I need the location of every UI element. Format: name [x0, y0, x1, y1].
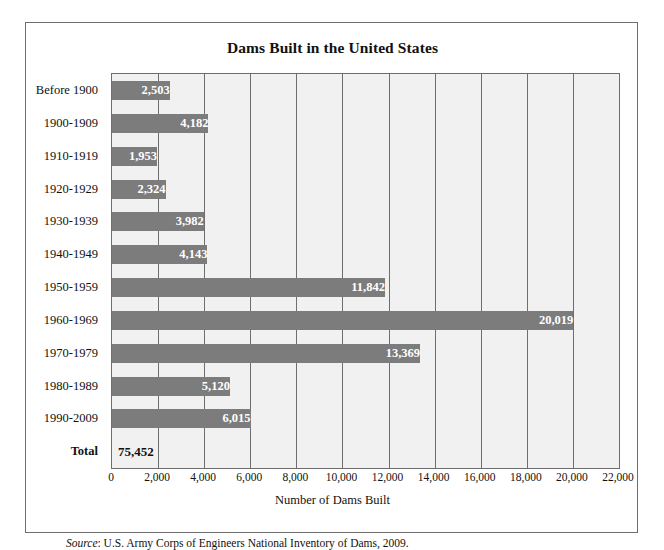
bar-row[interactable]: 11,842 — [112, 271, 619, 304]
x-tick-label: 20,000 — [556, 471, 588, 483]
bar-value-label: 4,182 — [112, 114, 213, 133]
x-tick-label: 4,000 — [190, 471, 216, 483]
x-tick-label: 10,000 — [326, 471, 358, 483]
bar-row[interactable]: 5,120 — [112, 370, 619, 403]
category-label: 1920-1929 — [0, 173, 98, 206]
x-tick-label: 2,000 — [144, 471, 170, 483]
bar-row[interactable]: 4,143 — [112, 238, 619, 271]
bar-value-label: 1,953 — [112, 147, 162, 166]
x-tick-label: 14,000 — [418, 471, 450, 483]
bar-value-label: 75,452 — [112, 442, 154, 461]
category-label: 1940-1949 — [0, 238, 98, 271]
source-label: Source — [66, 537, 98, 549]
bar-value-label: 4,143 — [112, 245, 212, 264]
x-tick-label: 12,000 — [372, 471, 404, 483]
x-axis-title: Number of Dams Built — [26, 493, 639, 508]
bar-row[interactable]: 13,369 — [112, 337, 619, 370]
bar-row[interactable]: 6,015 — [112, 402, 619, 435]
bar-value-label: 20,019 — [112, 311, 578, 330]
bar-row[interactable]: 1,953 — [112, 140, 619, 173]
category-label: 1910-1919 — [0, 140, 98, 173]
bar-row[interactable]: 4,182 — [112, 107, 619, 140]
bar-value-label: 6,015 — [112, 409, 256, 428]
bar-row[interactable]: 2,324 — [112, 173, 619, 206]
category-label: 1990-2009 — [0, 402, 98, 435]
bar-value-label: 13,369 — [112, 344, 425, 363]
figure-frame: Dams Built in the United States 2,5034,1… — [25, 22, 638, 533]
chart-title: Dams Built in the United States — [26, 39, 639, 57]
bar-value-label: 2,503 — [112, 81, 175, 100]
category-label: Total — [0, 435, 98, 468]
category-label: 1970-1979 — [0, 337, 98, 370]
category-label: 1930-1939 — [0, 205, 98, 238]
x-tick-label: 22,000 — [602, 471, 634, 483]
bar-value-label: 5,120 — [112, 377, 235, 396]
bar-value-label: 2,324 — [112, 180, 171, 199]
x-tick-label: 18,000 — [510, 471, 542, 483]
bar-value-label: 3,982 — [112, 212, 209, 231]
bar-value-label: 11,842 — [112, 278, 390, 297]
category-label: 1950-1959 — [0, 271, 98, 304]
bar-row[interactable]: 3,982 — [112, 205, 619, 238]
category-label: 1960-1969 — [0, 304, 98, 337]
x-tick-label: 0 — [108, 471, 114, 483]
bar-row[interactable]: 2,503 — [112, 74, 619, 107]
source-text: : U.S. Army Corps of Engineers National … — [98, 537, 409, 549]
x-tick-label: 6,000 — [236, 471, 262, 483]
x-tick-label: 8,000 — [282, 471, 308, 483]
bar-row[interactable]: 75,452 — [112, 435, 619, 468]
category-label: Before 1900 — [0, 74, 98, 107]
plot-area: 2,5034,1821,9532,3243,9824,14311,84220,0… — [111, 73, 620, 469]
category-axis-labels: Before 19001900-19091910-19191920-192919… — [0, 74, 106, 468]
category-label: 1900-1909 — [0, 107, 98, 140]
source-note: Source: U.S. Army Corps of Engineers Nat… — [66, 537, 409, 549]
x-axis-tick-labels: 02,0004,0006,0008,00010,00012,00014,0001… — [111, 471, 618, 489]
x-tick-label: 16,000 — [464, 471, 496, 483]
bar-row[interactable]: 20,019 — [112, 304, 619, 337]
category-label: 1980-1989 — [0, 370, 98, 403]
